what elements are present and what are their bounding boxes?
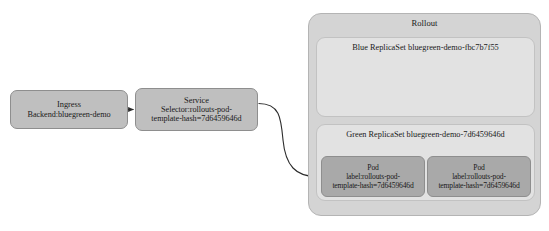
pod-2-label-line-2: template-hash=7d6459646d	[438, 181, 519, 190]
pod-box-1[interactable]: Pod label:rollouts-pod- template-hash=7d…	[321, 156, 425, 197]
pod-1-title: Pod	[367, 163, 378, 172]
service-node[interactable]: Service Selector:rollouts-pod- template-…	[135, 88, 258, 131]
ingress-node[interactable]: Ingress Backend:bluegreen-demo	[10, 90, 128, 129]
pod-box-2[interactable]: Pod label:rollouts-pod- template-hash=7d…	[427, 156, 531, 197]
blue-replicaset-name: bluegreen-demo-fbc7b7f55	[408, 43, 499, 52]
blue-replicaset-title: Blue ReplicaSet	[352, 43, 406, 52]
rollout-title: Rollout	[309, 18, 540, 28]
blue-replicaset-header: Blue ReplicaSet bluegreen-demo-fbc7b7f55	[317, 43, 534, 53]
green-replicaset-name: bluegreen-demo-7d6459646d	[407, 130, 505, 139]
rollout-architecture-diagram: Ingress Backend:bluegreen-demo Service S…	[0, 0, 549, 231]
service-selector-line-2: template-hash=7d6459646d	[151, 114, 241, 123]
ingress-backend-label: Backend:bluegreen-demo	[27, 110, 110, 119]
service-title: Service	[184, 96, 209, 105]
blue-replicaset-box[interactable]: Blue ReplicaSet bluegreen-demo-fbc7b7f55	[316, 37, 535, 117]
pod-1-label-line-1: label:rollouts-pod-	[346, 172, 400, 181]
ingress-title: Ingress	[57, 100, 81, 109]
pod-1-label-line-2: template-hash=7d6459646d	[332, 181, 413, 190]
pod-2-label-line-1: label:rollouts-pod-	[452, 172, 506, 181]
pod-2-title: Pod	[473, 163, 484, 172]
service-selector-line-1: Selector:rollouts-pod-	[161, 105, 232, 114]
green-replicaset-header: Green ReplicaSet bluegreen-demo-7d645964…	[317, 130, 534, 140]
green-replicaset-title: Green ReplicaSet	[346, 130, 404, 139]
